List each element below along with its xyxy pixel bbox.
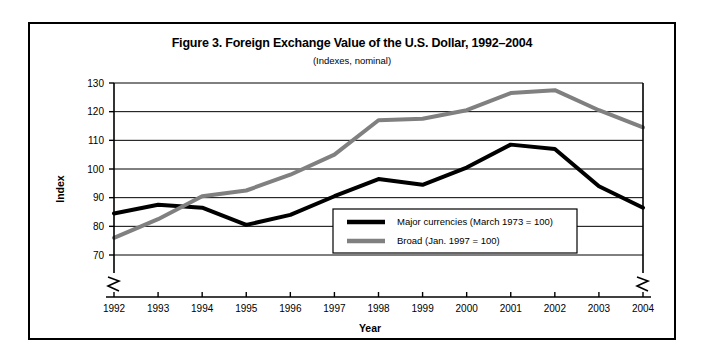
x-tick-label: 2002 (544, 303, 567, 314)
x-axis-tick-labels: 1992199319941995199619971998199920002001… (103, 303, 655, 314)
line-chart: 708090100110120130 199219931994199519961… (30, 24, 678, 342)
y-tick-label: 130 (87, 78, 104, 89)
y-tick-label: 120 (87, 106, 104, 117)
plot-area: 708090100110120130 199219931994199519961… (30, 24, 678, 342)
y-tick-label: 90 (93, 192, 105, 203)
x-tick-label: 1996 (279, 303, 302, 314)
legend: Major currencies (March 1973 = 100)Broad… (333, 209, 577, 253)
x-tick-label: 2000 (456, 303, 479, 314)
y-tick-label: 70 (93, 250, 105, 261)
x-tick-label: 1997 (323, 303, 346, 314)
x-axis-break-icon (637, 277, 648, 291)
x-axis-title: Year (359, 322, 381, 334)
legend-label: Broad (Jan. 1997 = 100) (397, 235, 500, 246)
x-tick-label: 1992 (103, 303, 126, 314)
x-tick-label: 1994 (191, 303, 214, 314)
x-tick-label: 1995 (235, 303, 258, 314)
y-axis-tick-labels: 708090100110120130 (87, 78, 104, 261)
x-tick-label: 2004 (632, 303, 655, 314)
x-tick-label: 1999 (411, 303, 434, 314)
y-axis-title: Index (54, 175, 66, 203)
y-tick-label: 110 (88, 135, 104, 146)
x-tick-label: 2001 (500, 303, 523, 314)
figure-frame: Figure 3. Foreign Exchange Value of the … (28, 22, 676, 340)
y-tick-label: 80 (93, 221, 105, 232)
x-tick-label: 1998 (367, 303, 390, 314)
x-tick-label: 1993 (147, 303, 170, 314)
legend-label: Major currencies (March 1973 = 100) (397, 216, 553, 227)
axis-lines (106, 83, 651, 297)
y-axis-break-icon (108, 277, 119, 291)
y-tick-label: 100 (87, 164, 104, 175)
x-tick-label: 2003 (588, 303, 611, 314)
